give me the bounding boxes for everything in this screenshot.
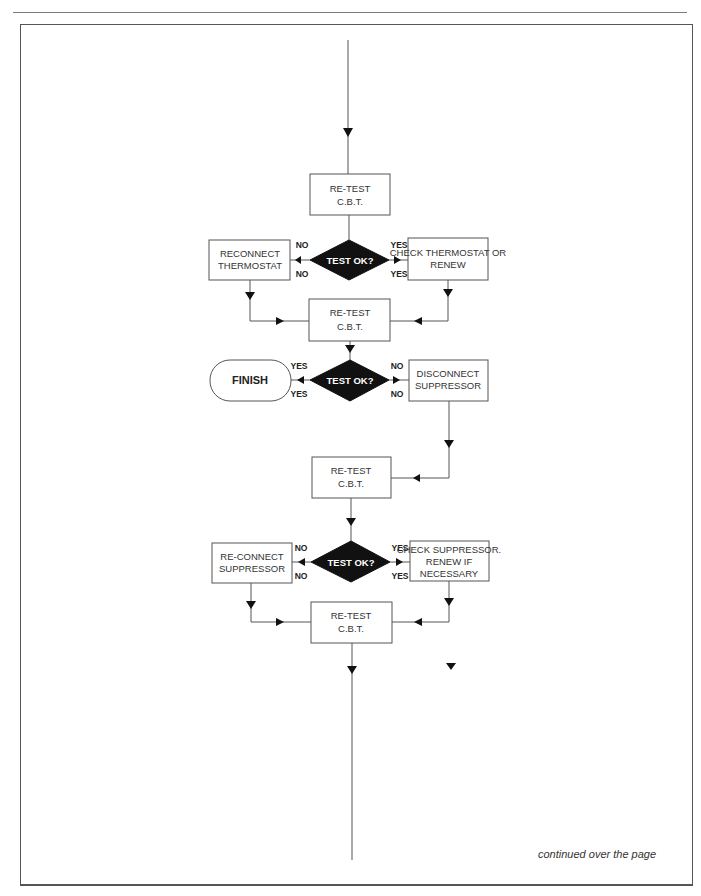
arrow-left-icon	[414, 618, 422, 626]
decision1-label: TEST OK?	[327, 255, 374, 266]
disconnect-suppressor-line2: SUPPRESSOR	[415, 380, 481, 391]
arrow-right-icon	[396, 558, 403, 566]
arrow-down-icon	[347, 666, 357, 674]
check-thermostat-line2: RENEW	[430, 259, 465, 270]
arrow-down-icon	[245, 292, 255, 300]
decision2-no-top: NO	[391, 361, 404, 371]
decision2-yes-top: YES	[290, 361, 307, 371]
retest3-line1: RE-TEST	[331, 465, 372, 476]
arrow-down-icon	[443, 289, 453, 297]
retest4-line1: RE-TEST	[331, 610, 372, 621]
arrow-left-icon	[298, 558, 305, 566]
arrow-right-icon	[393, 376, 400, 384]
retest1-line1: RE-TEST	[330, 183, 371, 194]
decision3-label: TEST OK?	[328, 557, 375, 568]
arrow-down-icon	[345, 345, 355, 353]
arrow-left-icon	[295, 256, 301, 264]
retest2-line2: C.B.T.	[337, 321, 363, 332]
retest3-line2: C.B.T.	[338, 478, 364, 489]
retest-box-2	[309, 299, 390, 341]
decision2-no-bottom: NO	[391, 389, 404, 399]
arrow-right-icon	[276, 618, 284, 626]
decision2-yes-bottom: YES	[290, 389, 307, 399]
arrow-left-icon	[413, 474, 420, 482]
decision3-yes-bottom: YES	[391, 571, 408, 581]
decision1-no-top: NO	[296, 240, 309, 250]
check-suppressor-line3: NECESSARY	[420, 568, 479, 579]
arrow-down-icon	[246, 601, 256, 609]
arrow-down-icon	[444, 440, 454, 448]
retest2-line1: RE-TEST	[330, 307, 371, 318]
check-suppressor-line2: RENEW IF	[426, 556, 473, 567]
arrow-left-icon	[297, 376, 304, 384]
reconnect-thermostat-line2: THERMOSTAT	[218, 260, 282, 271]
retest4-line2: C.B.T.	[338, 623, 364, 634]
flowchart: RE-TEST C.B.T. TEST OK? NO NO YES YES RE…	[0, 0, 701, 896]
connectors	[250, 40, 449, 860]
decision3-no-top: NO	[295, 543, 308, 553]
decision1-yes-bottom: YES	[390, 269, 407, 279]
decision2-label: TEST OK?	[327, 375, 374, 386]
decision1-no-bottom: NO	[296, 269, 309, 279]
reconnect-suppressor-line2: SUPPRESSOR	[219, 563, 285, 574]
continued-note: continued over the page	[538, 848, 656, 860]
arrow-left-icon	[414, 317, 422, 325]
arrow-down-icon	[346, 518, 356, 526]
arrow-down-icon	[343, 128, 353, 137]
disconnect-suppressor-line1: DISCONNECT	[417, 368, 480, 379]
arrow-right-icon	[276, 317, 284, 325]
decision3-no-bottom: NO	[295, 571, 308, 581]
arrow-down-icon	[444, 598, 454, 606]
stray-arrow-down-icon	[446, 663, 456, 670]
retest-box-1	[310, 174, 390, 215]
reconnect-thermostat-line1: RECONNECT	[220, 248, 280, 259]
reconnect-suppressor-line1: RE-CONNECT	[220, 551, 284, 562]
check-suppressor-line1: CHECK SUPPRESSOR.	[397, 544, 502, 555]
check-thermostat-line1: CHECK THERMOSTAT OR	[390, 247, 507, 258]
finish-label: FINISH	[232, 374, 268, 386]
retest1-line2: C.B.T.	[337, 196, 363, 207]
